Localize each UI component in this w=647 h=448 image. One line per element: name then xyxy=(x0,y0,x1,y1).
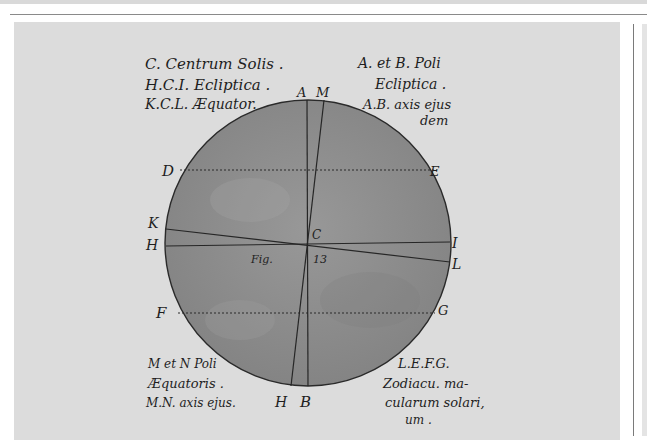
legend-bl-1: Æquatoris . xyxy=(146,376,224,391)
legend-tr-1: Ecliptica . xyxy=(374,76,446,92)
point-M: M xyxy=(315,85,330,100)
legend-tr-3: dem xyxy=(420,113,448,128)
point-D: D xyxy=(161,162,174,180)
point-I: I xyxy=(451,235,458,251)
legend-bl-2: M.N. axis ejus. xyxy=(145,396,236,410)
legend-tl-2: K.C.L. Æquator. xyxy=(144,96,257,112)
point-L: L xyxy=(451,256,461,272)
legend-tl-0: C. Centrum Solis . xyxy=(145,55,283,73)
legend-br-1: Zodiacu. ma- xyxy=(382,376,468,391)
point-H-bottom: H xyxy=(274,394,288,410)
point-C: C xyxy=(312,228,321,242)
legend-bl-0: M et N Poli xyxy=(147,357,217,371)
point-G: G xyxy=(438,303,448,318)
point-A: A xyxy=(296,85,306,100)
legend-br-0: L.E.F.G. xyxy=(397,356,450,371)
point-E: E xyxy=(429,164,440,179)
legend-br-2: cularum solari, xyxy=(385,395,485,410)
legend-br-3: um . xyxy=(405,413,432,427)
caption-fig: Fig. xyxy=(250,253,273,266)
point-B: B xyxy=(299,393,311,411)
sun-diagram: C. Centrum Solis . H.C.I. Ecliptica . K.… xyxy=(0,0,647,448)
legend-tr-2: A.B. axis ejus xyxy=(362,97,451,112)
legend-tr-0: A. et B. Poli xyxy=(356,55,441,71)
point-F: F xyxy=(155,304,167,322)
point-H: H xyxy=(145,237,159,253)
legend-tl-1: H.C.I. Ecliptica . xyxy=(144,76,270,94)
point-K: K xyxy=(147,215,160,231)
caption-num: 13 xyxy=(313,253,327,266)
